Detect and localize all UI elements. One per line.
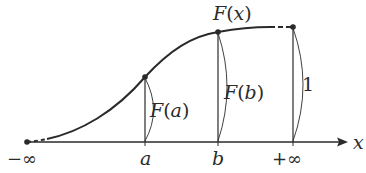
cdf-diagram: x −∞ a b +∞ F(x) F(a) F(b) 1 (0, 0, 366, 173)
x-axis-label: x (353, 131, 364, 153)
tick-label-pos-inf: +∞ (272, 148, 302, 169)
tick-label-neg-inf: −∞ (7, 148, 37, 169)
curve-label-F-x: F(x) (212, 2, 252, 24)
height-label-one: 1 (302, 73, 314, 95)
height-label-F-a: F(a) (149, 99, 189, 121)
height-label-F-b: F(b) (223, 81, 264, 103)
tick-label-a: a (140, 147, 151, 169)
tick-label-b: b (212, 147, 224, 169)
point-neg-inf (24, 139, 30, 145)
